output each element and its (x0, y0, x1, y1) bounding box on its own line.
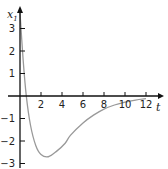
y-axis-label: x1 (7, 8, 18, 23)
x-tick-label: 2 (38, 99, 44, 110)
x-tick-label: 6 (80, 99, 86, 110)
x-axis-label: t (156, 101, 161, 114)
data-curve (20, 13, 146, 157)
y-tick-label: 3 (9, 23, 15, 34)
x-axis: 24681012 (8, 92, 164, 110)
y-tick-label: −3 (0, 158, 15, 169)
y-axis-label-sub: 1 (13, 15, 17, 23)
y-tick-label: 1 (9, 68, 15, 79)
y-axis-arrow-icon (17, 6, 23, 13)
plot-area (20, 13, 146, 157)
x-tick-label: 12 (140, 99, 153, 110)
x-tick-label: 10 (119, 99, 132, 110)
y-tick-label: 2 (9, 46, 15, 57)
y-tick-label: −1 (0, 113, 15, 124)
y-tick-label: −2 (0, 136, 15, 147)
x-tick-label: 4 (59, 99, 65, 110)
x-tick-label: 8 (101, 99, 107, 110)
line-chart: 24681012 321−1−2−3 t x1 (0, 0, 168, 169)
x-axis-arrow-icon (158, 93, 164, 99)
